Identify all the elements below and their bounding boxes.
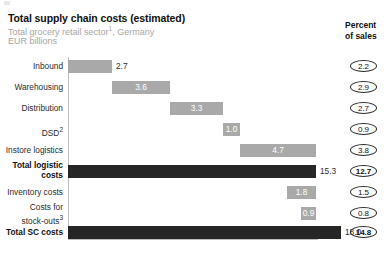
row-label-line: Warehousing (0, 83, 63, 93)
row-label-line: Costs for (0, 203, 63, 213)
percent-of-sales-badge: 2.9 (350, 81, 377, 93)
page-title: Total supply chain costs (estimated) (8, 12, 185, 24)
row-label-line: Inbound (0, 62, 63, 72)
bar-value-label: 4.7 (240, 144, 316, 157)
vertical-axis-line (68, 57, 69, 239)
row-label-line: Total SC costs (0, 228, 63, 238)
bar-value-label: 0.9 (301, 207, 316, 220)
percent-of-sales-badge: 14.8 (350, 226, 377, 238)
row-label: Inbound (0, 62, 63, 72)
row-label: Distribution (0, 104, 63, 114)
row-label: Instore logistics (0, 146, 63, 156)
row-label-line: costs (0, 171, 63, 181)
total-bar (68, 226, 341, 239)
row-label: DSD2 (0, 125, 63, 138)
bar-value-label: 2.7 (116, 60, 128, 73)
footnote-marker: 3 (59, 214, 63, 221)
percent-of-sales-badge: 0.8 (350, 207, 377, 219)
row-label-line: stock-outs3 (0, 213, 63, 226)
row-label-line: Instore logistics (0, 146, 63, 156)
row-label-line: Distribution (0, 104, 63, 114)
row-label: Warehousing (0, 83, 63, 93)
top-edge-artifact (4, 1, 10, 5)
horizontal-axis-line (68, 239, 318, 240)
percent-of-sales-badge: 12.7 (350, 165, 377, 177)
footnote-marker: 2 (59, 126, 63, 133)
row-label: Costs forstock-outs3 (0, 203, 63, 226)
row-label: Inventory costs (0, 188, 63, 198)
step-bar (68, 60, 112, 73)
percent-of-sales-header: Percent of sales (345, 20, 389, 41)
percent-of-sales-badge: 2.7 (350, 102, 377, 114)
row-label-line: DSD2 (0, 125, 63, 138)
chart-subtitle-unit: EUR billions (8, 36, 57, 46)
percent-of-sales-badge: 1.5 (350, 186, 377, 198)
total-bar (68, 165, 316, 178)
percent-header-line1: Percent (345, 20, 389, 31)
bar-value-label: 3.6 (112, 81, 170, 94)
bar-value-label: 1.8 (287, 186, 316, 199)
row-label-line: Inventory costs (0, 188, 63, 198)
row-label: Total logisticcosts (0, 161, 63, 180)
percent-header-line2: of sales (345, 31, 389, 42)
bar-value-label: 15.3 (320, 165, 336, 178)
percent-of-sales-badge: 2.2 (350, 60, 377, 72)
chart-canvas: Total supply chain costs (estimated) Tot… (0, 0, 389, 255)
bar-value-label: 3.3 (170, 102, 223, 115)
percent-of-sales-badge: 0.9 (350, 123, 377, 135)
percent-of-sales-badge: 3.8 (350, 144, 377, 156)
subtitle-country-text: , Germany (112, 27, 154, 37)
row-label: Total SC costs (0, 228, 63, 238)
bar-value-label: 1.0 (223, 123, 240, 136)
